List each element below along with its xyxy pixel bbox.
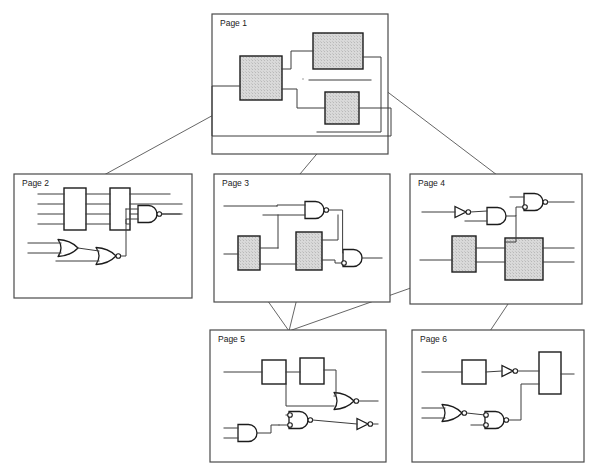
inverter-gate-page5-bubble xyxy=(368,422,373,427)
page-label-page5: Page 5 xyxy=(218,334,245,344)
nand-gate-page2-bubble xyxy=(157,212,162,217)
and-gate-page5 xyxy=(238,425,257,442)
block-block-mid-page3[interactable] xyxy=(296,232,322,270)
page-group-page4: Page 4 xyxy=(410,174,582,304)
page-frame-page5[interactable] xyxy=(210,330,386,462)
page-label-page1: Page 1 xyxy=(220,18,247,28)
page-frame-page4[interactable] xyxy=(410,174,582,304)
page-label-page2: Page 2 xyxy=(22,178,49,188)
block-block-right-page4[interactable] xyxy=(505,238,543,280)
page-group-page5: Page 5 xyxy=(210,330,386,462)
nand-in-bubble-b-page6 xyxy=(484,423,489,428)
nand-in-bubble-page4 xyxy=(523,205,528,210)
page-group-page6: Page 6 xyxy=(412,330,584,462)
nand-in-bubble-a-page6 xyxy=(484,413,489,418)
page-group-page2: Page 2 xyxy=(14,174,192,298)
nand-gate-page2 xyxy=(138,206,157,223)
and-in-bubble-page3 xyxy=(342,261,347,266)
block-block-c-page1[interactable] xyxy=(325,92,359,124)
block-block-b-page1[interactable] xyxy=(313,33,363,69)
and-gate-page4 xyxy=(487,208,506,225)
block-block-left-page4[interactable] xyxy=(452,236,476,272)
page-group-page1: Page 1 xyxy=(212,14,391,154)
nor-gate-page6-bubble xyxy=(462,411,467,416)
inverter-gate-page6-bubble xyxy=(513,369,518,374)
page-group-page3: Page 3 xyxy=(214,174,390,302)
nand-gate-page5-bubble xyxy=(308,418,313,423)
block-block-tall-page6[interactable] xyxy=(539,352,561,394)
block-block-two-page5[interactable] xyxy=(300,358,324,384)
block-block-a-page1[interactable] xyxy=(240,56,282,100)
page-label-page4: Page 4 xyxy=(418,178,445,188)
block-block-left-page3[interactable] xyxy=(238,236,260,270)
block-block-one-page5[interactable] xyxy=(262,360,286,384)
nand-gate-page4-bubble xyxy=(543,200,548,205)
nand-in-bubble-a-page5 xyxy=(288,413,293,418)
page-label-page6: Page 6 xyxy=(420,334,447,344)
diagram-canvas: Page 1Page 2Page 3Page 4Page 5Page 6 xyxy=(0,0,594,473)
nor-gate-page2-bubble xyxy=(116,254,121,259)
inverter-gate-page4-bubble xyxy=(466,210,471,215)
nand-in-bubble-b-page5 xyxy=(288,423,293,428)
page-frame-page2[interactable] xyxy=(14,174,192,298)
block-block-small-page6[interactable] xyxy=(462,360,486,384)
nor-gate-page5-bubble xyxy=(354,399,359,404)
nand-gate-page3-bubble xyxy=(324,208,329,213)
block-bus-block-left-page2[interactable] xyxy=(64,188,86,230)
nand-gate-page3 xyxy=(305,202,324,219)
page-frame-page6[interactable] xyxy=(412,330,584,462)
schematic-diagram: Page 1Page 2Page 3Page 4Page 5Page 6 xyxy=(0,0,594,473)
page-label-page3: Page 3 xyxy=(222,178,249,188)
nand-gate-page6-bubble xyxy=(504,418,509,423)
